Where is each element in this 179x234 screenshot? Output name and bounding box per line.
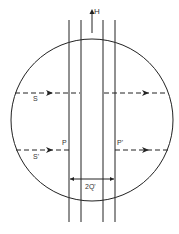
upper-right-arrow-icon (142, 90, 149, 96)
label-s-upper: S (33, 95, 38, 102)
dimension-left-arrow-icon (70, 177, 74, 181)
label-p-left: P (62, 139, 67, 146)
dimension-right-arrow-icon (110, 177, 114, 181)
lower-left-arrow-icon (46, 147, 53, 153)
label-p-right: P' (117, 139, 123, 146)
label-s-lower: S' (33, 153, 39, 160)
label-h: H (94, 7, 100, 16)
diagram: H S S' P P' 2Q' (0, 0, 179, 234)
circle-boundary (11, 39, 173, 201)
label-width: 2Q' (85, 183, 96, 191)
